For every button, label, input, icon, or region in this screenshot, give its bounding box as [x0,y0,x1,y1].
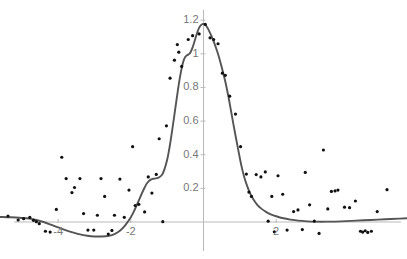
scatter-plot-figure: 0.20.40.60.811.2-4-22 [0,0,407,259]
scatter-point [250,195,253,198]
scatter-point [239,145,242,148]
scatter-point [292,210,295,213]
scatter-point [78,177,81,180]
scatter-point [255,173,258,176]
scatter-point [92,228,95,231]
x-tick-label: 2 [262,226,290,237]
scatter-point [110,229,113,232]
scatter-point [103,195,106,198]
y-tick-label: 0.8 [183,81,198,92]
scatter-point [281,193,284,196]
scatter-point [143,210,146,213]
scatter-point [187,38,190,41]
scatter-point [208,36,211,39]
scatter-point [150,191,153,194]
scatter-point [348,206,351,209]
scatter-point [86,228,89,231]
scatter-point [216,42,219,45]
scatter-point [343,206,346,209]
scatter-point [259,175,262,178]
y-tick-label: 0.2 [183,182,198,193]
scatter-point [296,208,299,211]
scatter-point [198,32,201,35]
x-tick-label: -2 [117,226,145,237]
y-tick-label: 1.2 [183,14,198,25]
scatter-point [60,156,63,159]
scatter-point [204,23,207,26]
scatter-point [245,172,248,175]
scatter-point [224,74,227,77]
scatter-point [385,188,388,191]
scatter-point [73,186,76,189]
scatter-point [22,217,25,220]
y-tick-label: 0.6 [183,115,198,126]
scatter-point [99,177,102,180]
scatter-point [221,72,224,75]
scatter-point [276,174,279,177]
scatter-point [234,112,237,115]
y-tick-label: 0.4 [183,149,198,160]
scatter-point [336,188,339,191]
scatter-point [38,222,41,225]
scatter-point [177,51,180,54]
scatter-point [127,188,130,191]
scatter-point [333,189,336,192]
scatter-point [322,148,325,151]
scatter-point [161,220,164,223]
scatter-point [317,232,320,235]
scatter-point [107,233,110,236]
scatter-point [267,220,270,223]
axis-lines [14,10,401,251]
scatter-point [228,95,231,98]
scatter-point [173,59,176,62]
scatter-point [96,214,99,217]
scatter-point [65,177,68,180]
scatter-point [123,216,126,219]
scatter-point [326,207,329,210]
scatter-point [354,199,357,202]
scatter-point [35,220,38,223]
scatter-point [158,137,161,140]
scatter-point [330,190,333,193]
scatter-point [180,65,183,68]
scatter-point [308,203,311,206]
plot-canvas [0,0,407,259]
scatter-point [17,218,20,221]
scatter-point [131,145,134,148]
scatter-point [301,228,304,231]
scatter-point [176,43,179,46]
scatter-point [28,216,31,219]
scatter-point [6,215,9,218]
scatter-point [304,171,307,174]
scatter-point [165,124,168,127]
scatter-point [313,220,316,223]
scatter-point [55,208,58,211]
scatter-point [212,38,215,41]
scatter-point [155,173,158,176]
y-tick-label: 1 [192,48,198,59]
scatter-point [147,175,150,178]
scatter-point [191,34,194,37]
scatter-point [270,195,273,198]
scatter-point [32,219,35,222]
scatter-point [82,212,85,215]
scatter-point [376,210,379,213]
scatter-point [137,203,140,206]
scatter-point [118,178,121,181]
scatter-point [366,231,369,234]
scatter-point [264,170,267,173]
scatter-point [168,77,171,80]
scatter-point [370,230,373,233]
x-tick-label: -4 [44,226,72,237]
scatter-point [247,190,250,193]
scatter-point [113,214,116,217]
scatter-point [70,191,73,194]
scatter-point [134,204,137,207]
